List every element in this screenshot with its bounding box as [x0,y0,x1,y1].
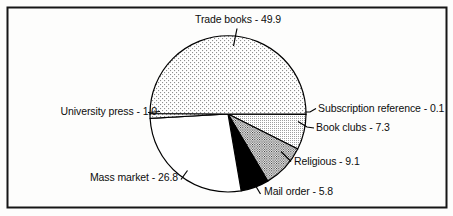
label-book-clubs: Book clubs - 7.3 [316,121,390,134]
pie-slices-group [150,36,306,192]
label-religious: Religious - 9.1 [294,155,360,168]
pie-chart-figure: Trade books - 49.9 Subscription referenc… [0,0,453,216]
label-trade-books: Trade books - 49.9 [182,13,294,26]
pie-slice-trade-books [150,36,306,114]
label-mail-order: Mail order - 5.8 [264,185,333,198]
label-mass-market: Mass market - 26.8 [61,171,178,184]
label-subscription-reference: Subscription reference - 0.1 [318,102,444,115]
leader-line-subscription-reference [306,109,317,113]
leader-line-mail-order [256,187,261,195]
label-university-press: University press - 1.0 [30,105,157,118]
